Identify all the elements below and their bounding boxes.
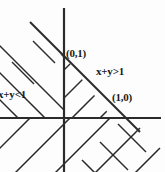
figure-canvas: [0, 0, 165, 172]
boundary-line-x-plus-y-equals-1: [30, 22, 140, 132]
label-vertex-0-1: (0,1): [66, 48, 86, 59]
hatch-group-lower-band: [0, 68, 165, 172]
inequality-region-figure: (0,1) x+y>1 x+y<1 (1,0): [0, 0, 165, 172]
label-vertex-1-0: (1,0): [112, 92, 132, 103]
label-region-x-plus-y-less-than-1: x+y<1: [0, 89, 26, 100]
hatch-cap-lines: [12, 41, 146, 172]
hatch-group-inner-triangle: [2, 22, 165, 172]
label-region-x-plus-y-greater-than-1: x+y>1: [96, 66, 124, 77]
